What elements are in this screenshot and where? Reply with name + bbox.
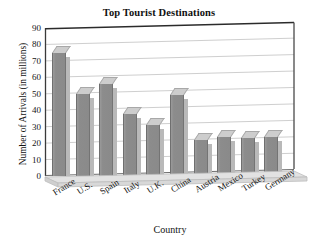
bar-front-face — [194, 140, 208, 176]
bar-front-face — [217, 137, 231, 176]
bar-top-cap — [146, 118, 165, 125]
bar-front-face — [170, 95, 184, 176]
bar — [217, 137, 231, 176]
bar-top-cap — [194, 133, 213, 140]
bar-front-face — [241, 138, 255, 176]
bar-front-face — [76, 94, 90, 176]
bar — [194, 140, 208, 176]
y-tick-label: 80 — [32, 40, 41, 49]
bar-top-cap — [52, 46, 71, 53]
bar-front-face — [123, 114, 137, 176]
bar-top-cap — [123, 107, 142, 114]
x-axis-title: Country — [30, 224, 310, 235]
bar — [264, 137, 278, 176]
bar-top-cap — [264, 130, 283, 137]
bar-side-face — [137, 118, 141, 176]
y-tick-label: 30 — [32, 122, 41, 131]
bar-top-cap — [217, 130, 236, 137]
y-tick-label: 90 — [32, 24, 41, 33]
y-axis-title: Number of Arrivals (in millions) — [12, 29, 26, 179]
bar-side-face — [160, 129, 164, 176]
bar — [99, 84, 113, 176]
bar-side-face — [113, 88, 117, 176]
bar-chart: Top Tourist Destinations Number of Arriv… — [0, 0, 318, 244]
y-tick-label: 10 — [32, 155, 41, 164]
bar-top-cap — [241, 131, 260, 138]
y-tick-label: 0 — [37, 172, 42, 181]
bar-side-face — [208, 144, 212, 176]
bar-side-face — [231, 141, 235, 176]
bar-front-face — [264, 137, 278, 176]
bar-front-face — [52, 53, 66, 176]
y-tick-label: 40 — [32, 106, 41, 115]
bar — [241, 138, 255, 176]
chart-title: Top Tourist Destinations — [0, 7, 318, 18]
bar-front-face — [146, 125, 160, 176]
y-tick-label: 20 — [32, 139, 41, 148]
bar — [123, 114, 137, 176]
bar-side-face — [66, 57, 70, 176]
bar — [146, 125, 160, 176]
bar-side-face — [255, 142, 259, 176]
bar — [170, 95, 184, 176]
bar-top-cap — [170, 88, 189, 95]
bar-side-face — [184, 99, 188, 176]
bar-top-cap — [76, 87, 95, 94]
bar-side-face — [90, 98, 94, 176]
plot-area: 0102030405060708090 — [45, 28, 303, 176]
y-axis-title-text: Number of Arrivals (in millions) — [18, 43, 28, 165]
y-tick-label: 70 — [32, 56, 41, 65]
y-tick-label: 50 — [32, 89, 41, 98]
bar — [76, 94, 90, 176]
bar-top-cap — [99, 77, 118, 84]
bar-front-face — [99, 84, 113, 176]
y-tick-label: 60 — [32, 73, 41, 82]
bars-group — [45, 28, 303, 176]
bar — [52, 53, 66, 176]
